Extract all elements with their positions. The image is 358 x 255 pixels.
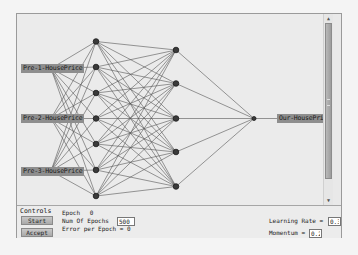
- error-per-epoch: Error per Epoch = 0: [62, 225, 131, 233]
- epoch-row: Epoch 0: [62, 209, 93, 217]
- hidden1-node-icon: [93, 193, 99, 199]
- momentum-label: Momentum =: [269, 229, 305, 237]
- scrollbar-grip-icon: [327, 99, 330, 106]
- input-label-2: Pre-2-HousePrice: [21, 114, 84, 123]
- hidden2-node-icon: [173, 116, 179, 122]
- output-node-icon: [252, 117, 256, 121]
- input-label-1: Pre-1-HousePrice: [21, 64, 84, 73]
- momentum-input[interactable]: [309, 229, 322, 238]
- num-epochs-label: Num Of Epochs: [62, 217, 109, 225]
- hidden2-node-icon: [173, 47, 179, 53]
- hidden2-node-icon: [173, 149, 179, 155]
- controls-panel: Controls Start Accept Epoch 0 Num Of Epo…: [17, 205, 341, 238]
- scrollbar-thumb[interactable]: [325, 23, 332, 179]
- epoch-label: Epoch: [62, 209, 80, 216]
- scroll-up-icon[interactable]: ▲: [324, 14, 333, 22]
- learning-rate-input[interactable]: [328, 217, 341, 226]
- hidden1-node-icon: [93, 167, 99, 173]
- vertical-scrollbar[interactable]: ▲ ▼: [323, 14, 333, 205]
- hidden2-node-icon: [173, 81, 179, 87]
- hidden1-node-icon: [93, 116, 99, 122]
- network-diagram: [17, 14, 333, 205]
- hidden1-node-icon: [93, 64, 99, 70]
- start-button[interactable]: Start: [21, 216, 53, 225]
- input-label-3: Pre-3-HousePrice: [21, 167, 84, 176]
- hidden1-node-icon: [93, 90, 99, 96]
- controls-title: Controls: [20, 207, 51, 215]
- hidden1-node-icon: [93, 39, 99, 45]
- network-canvas: Pre-1-HousePrice Pre-2-HousePrice Pre-3-…: [17, 14, 333, 205]
- hidden1-node-icon: [93, 141, 99, 147]
- learning-rate-label: Learning Rate =: [269, 217, 323, 225]
- scroll-down-icon[interactable]: ▼: [324, 196, 333, 204]
- epoch-value: 0: [90, 209, 94, 216]
- accept-button[interactable]: Accept: [21, 228, 53, 237]
- neural-network-window: Pre-1-HousePrice Pre-2-HousePrice Pre-3-…: [16, 13, 342, 238]
- hidden2-node-icon: [173, 184, 179, 190]
